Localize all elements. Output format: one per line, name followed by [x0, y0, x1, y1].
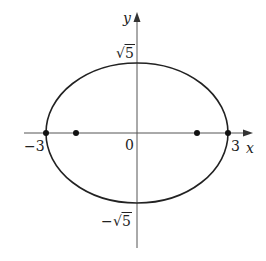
focus-right-point [194, 130, 200, 136]
x-neg-label: −3 [24, 138, 45, 154]
ellipse-diagram: y x 0 −3 3 √ 5 − √ 5 [0, 0, 266, 261]
y-axis-arrow-icon [134, 12, 141, 22]
y-neg-label: − √ 5 [101, 213, 132, 230]
vertex-right-point [225, 130, 231, 136]
vertex-left-point [43, 130, 49, 136]
x-pos-label: 3 [231, 138, 240, 154]
y-axis [134, 12, 141, 248]
y-pos-label: √ 5 [116, 45, 135, 62]
x-axis-label: x [246, 140, 254, 156]
radical-sign-icon: √ [116, 45, 125, 61]
y-neg-value: 5 [122, 213, 131, 229]
minus-sign: − [101, 213, 113, 229]
y-pos-value: 5 [125, 45, 134, 61]
focus-left-point [73, 130, 79, 136]
radical-sign-icon: √ [113, 213, 122, 229]
origin-label: 0 [125, 137, 134, 153]
x-axis-arrow-icon [243, 130, 253, 137]
y-axis-label: y [122, 10, 132, 26]
x-axis [24, 130, 253, 137]
